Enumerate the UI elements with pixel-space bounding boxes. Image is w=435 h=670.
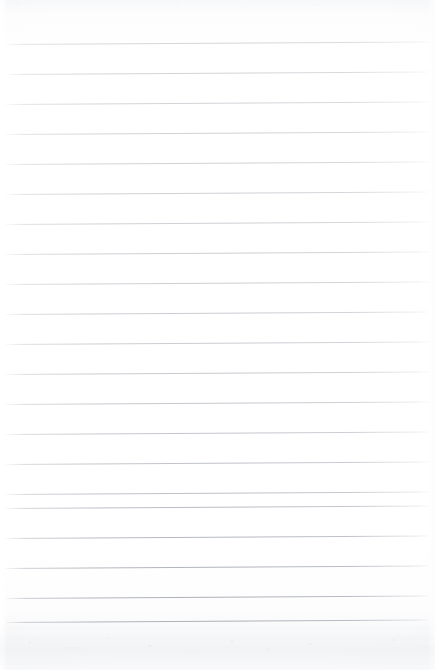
rule-line [5,311,429,315]
left-margin-strip [0,0,6,670]
rule-line [5,535,429,539]
rule-line [5,251,429,255]
rule-line [5,131,429,135]
ruled-lines-layer [0,0,435,670]
rule-line [5,401,429,405]
rule-line [5,221,429,225]
rule-line [5,71,429,75]
rule-line [5,191,429,195]
top-scan-speckle-band [0,0,435,16]
rule-line [5,461,429,465]
rule-line [5,619,429,623]
rule-line [5,371,429,375]
rule-line [5,341,429,345]
rule-line [5,431,429,435]
rule-line [5,101,429,105]
bottom-scan-speckle-band [0,626,435,670]
rule-line [5,41,429,45]
right-margin-strip [429,0,435,670]
scanned-page [0,0,435,670]
rule-line [5,505,429,509]
rule-line [5,565,429,569]
rule-line [5,281,429,285]
rule-line [5,161,429,165]
rule-line [5,491,429,495]
rule-line [5,595,429,599]
paper-tone-overlay [0,0,435,670]
